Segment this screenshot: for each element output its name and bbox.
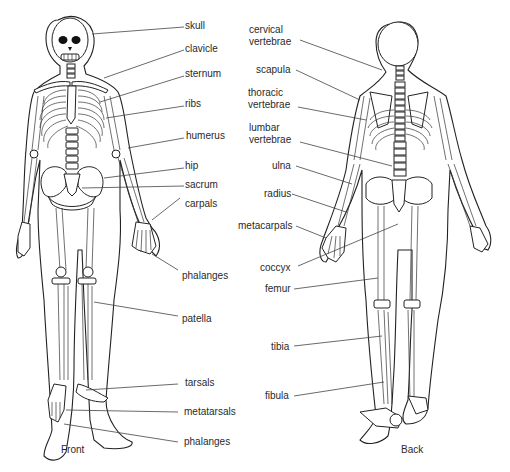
caption-back: Back — [401, 444, 423, 455]
label-radius: radius — [264, 188, 291, 200]
label-thoracic-line1: thoracic — [248, 87, 290, 99]
label-tarsals: tarsals — [185, 377, 214, 389]
back-skeleton-figure — [320, 22, 491, 444]
front-skeleton-figure — [16, 17, 159, 461]
label-ribs: ribs — [185, 98, 201, 110]
label-phalanges-hand: phalanges — [182, 270, 228, 282]
caption-front: Front — [61, 444, 84, 455]
skeleton-diagram: skull clavicle sternum ribs humerus hip … — [0, 0, 510, 472]
skeleton-illustration — [0, 0, 510, 472]
label-carpals: carpals — [185, 198, 217, 210]
label-thoracic-line2: vertebrae — [248, 99, 290, 111]
label-patella: patella — [182, 313, 211, 325]
label-hip: hip — [185, 160, 198, 172]
label-ulna: ulna — [272, 160, 291, 172]
label-fibula: fibula — [265, 390, 289, 402]
back-leader-lines — [292, 40, 398, 396]
label-clavicle: clavicle — [185, 43, 218, 55]
label-thoracic-vertebrae: thoracic vertebrae — [248, 87, 290, 111]
label-lumbar-line1: lumbar — [249, 122, 291, 134]
label-humerus: humerus — [186, 130, 225, 142]
label-lumbar-vertebrae: lumbar vertebrae — [249, 122, 291, 146]
label-skull: skull — [185, 20, 205, 32]
label-metatarsals: metatarsals — [184, 406, 236, 418]
label-phalanges-foot: phalanges — [184, 436, 230, 448]
label-scapula: scapula — [256, 64, 290, 76]
label-tibia: tibia — [271, 341, 289, 353]
label-coccyx: coccyx — [260, 262, 291, 274]
label-cervical-line2: vertebrae — [249, 36, 291, 48]
label-cervical-line1: cervical — [249, 24, 291, 36]
label-sacrum: sacrum — [185, 179, 218, 191]
label-lumbar-line2: vertebrae — [249, 134, 291, 146]
label-femur: femur — [265, 283, 291, 295]
label-metacarpals: metacarpals — [238, 220, 292, 232]
label-sternum: sternum — [185, 68, 221, 80]
label-cervical-vertebrae: cervical vertebrae — [249, 24, 291, 48]
front-leader-lines — [64, 27, 184, 442]
